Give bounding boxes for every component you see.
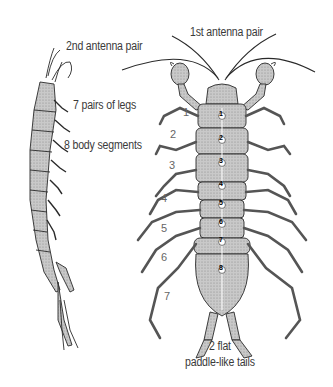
- side-view-isopod: [30, 48, 78, 350]
- label-7-pairs-of-legs: 7 pairs of legs: [73, 98, 136, 112]
- leg-number-4: 4: [161, 192, 167, 204]
- leg-number-3: 3: [169, 159, 175, 171]
- segment-number-7: 7: [219, 236, 223, 243]
- leg-number-5: 5: [161, 222, 167, 234]
- label-tails-line2: paddle-like tails: [185, 355, 255, 369]
- leg-number-2: 2: [170, 128, 176, 140]
- segment-number-8: 8: [219, 264, 223, 271]
- leg-number-1: 1: [183, 106, 189, 118]
- leg-number-6: 6: [161, 251, 167, 263]
- top-view-isopod: [122, 34, 315, 358]
- segment-number-5: 5: [219, 199, 223, 206]
- label-tails-line1: 2 flat: [209, 339, 231, 353]
- label-8-body-segments: 8 body segments: [64, 138, 142, 152]
- leg-number-7: 7: [164, 290, 170, 302]
- label-2nd-antenna-pair: 2nd antenna pair: [66, 39, 142, 53]
- isopod-diagram: 1 2 3 4 5 6 7 8 1 2 3 4 5 6 7 1st antenn…: [0, 0, 333, 387]
- segment-number-2: 2: [219, 134, 223, 141]
- segment-number-3: 3: [219, 157, 223, 164]
- label-1st-antenna-pair: 1st antenna pair: [190, 25, 263, 39]
- segment-number-6: 6: [219, 218, 223, 225]
- segment-number-1: 1: [219, 110, 223, 117]
- segment-number-4: 4: [219, 180, 223, 187]
